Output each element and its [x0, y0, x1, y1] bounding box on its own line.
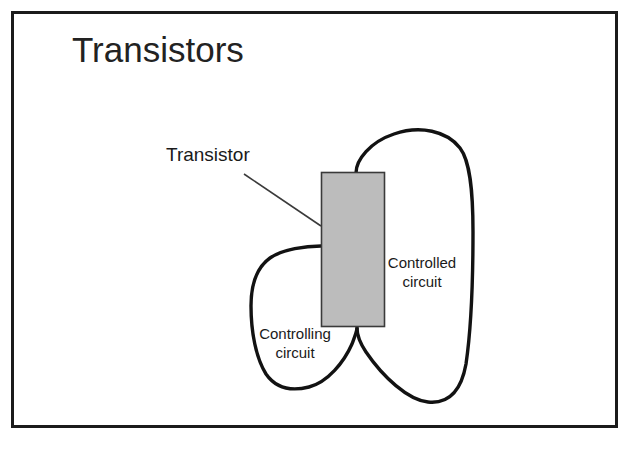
- transistor-diagram: [0, 0, 634, 449]
- transistor-block: [322, 173, 385, 327]
- slide-canvas: Transistors Transistor Controlled circui…: [0, 0, 634, 449]
- transistor-leader-line: [244, 174, 321, 226]
- controlling-circuit-label-line-2: circuit: [249, 344, 341, 363]
- controlled-circuit-label-line-1: Controlled: [385, 254, 459, 273]
- controlled-circuit-label: Controlled circuit: [385, 254, 459, 292]
- controlling-circuit-label-line-1: Controlling: [249, 325, 341, 344]
- controlled-circuit-label-line-2: circuit: [385, 273, 459, 292]
- transistor-label: Transistor: [166, 143, 250, 167]
- controlling-circuit-label: Controlling circuit: [249, 325, 341, 363]
